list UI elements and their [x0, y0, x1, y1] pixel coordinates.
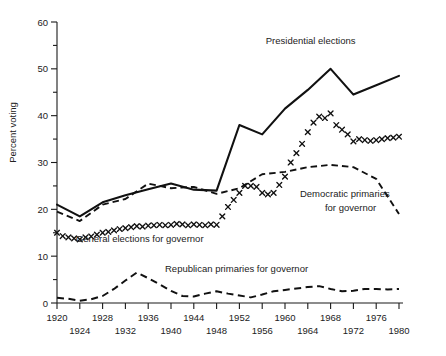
x-tick-label: 1936	[138, 312, 159, 323]
x-marker	[186, 223, 191, 228]
x-marker	[288, 160, 293, 165]
series-1	[55, 111, 402, 242]
x-tick-label: 1928	[92, 312, 113, 323]
x-marker	[385, 136, 390, 141]
y-axis: 0102030405060Percent voting	[7, 17, 57, 309]
series-annotation: Presidential elections	[266, 35, 356, 46]
y-tick-label: 40	[37, 110, 48, 121]
x-marker	[380, 137, 385, 142]
x-tick-label: 1944	[183, 312, 204, 323]
series-annotation: Democratic primaries	[300, 188, 390, 199]
y-axis-title: Percent voting	[7, 102, 18, 163]
x-tick-label: 1976	[366, 312, 387, 323]
x-marker	[271, 191, 276, 196]
x-tick-label: 1952	[229, 312, 250, 323]
x-marker	[226, 205, 231, 210]
x-marker	[117, 227, 122, 232]
x-marker	[203, 223, 208, 228]
x-marker	[209, 222, 214, 227]
series-annotation: for governor	[325, 202, 376, 213]
dashed-series-path	[57, 273, 399, 301]
x-marker	[191, 222, 196, 227]
x-marker	[220, 214, 225, 219]
x-marker	[368, 139, 373, 144]
x-tick-label: 1972	[343, 325, 364, 336]
y-tick-label: 20	[37, 204, 48, 215]
x-tick-label: 1932	[115, 325, 136, 336]
x-marker	[180, 222, 185, 227]
x-marker	[157, 222, 162, 227]
x-marker	[266, 192, 271, 197]
x-marker	[60, 234, 65, 239]
x-marker	[248, 184, 253, 189]
y-tick-label: 60	[37, 17, 48, 28]
x-marker	[129, 225, 134, 230]
x-marker	[231, 198, 236, 203]
x-marker	[260, 191, 265, 196]
series-annotation: General elections for governor	[76, 233, 204, 244]
x-marker	[254, 184, 259, 189]
x-marker	[283, 174, 288, 179]
x-marker	[300, 141, 305, 146]
x-marker	[140, 224, 145, 229]
y-tick-label: 50	[37, 63, 48, 74]
x-marker	[305, 130, 310, 135]
annotation-layer: Presidential electionsGeneral elections …	[76, 35, 390, 274]
x-marker	[66, 235, 71, 240]
x-tick-label: 1948	[206, 325, 227, 336]
x-marker	[277, 183, 282, 188]
x-marker	[169, 222, 174, 227]
series-annotation: Republican primaries for governor	[165, 263, 308, 274]
x-marker	[146, 223, 151, 228]
x-marker	[174, 221, 179, 226]
x-marker	[391, 135, 396, 140]
x-marker	[397, 134, 402, 139]
x-marker	[351, 139, 356, 144]
x-marker	[340, 127, 345, 132]
voter-turnout-line-chart: 0102030405060Percent voting 192019281936…	[0, 0, 446, 356]
x-marker	[357, 137, 362, 142]
x-marker	[112, 228, 117, 233]
x-tick-label: 1940	[160, 325, 181, 336]
x-marker	[362, 138, 367, 143]
y-tick-label: 30	[37, 157, 48, 168]
x-tick-label: 1980	[388, 325, 409, 336]
x-marker	[374, 138, 379, 143]
x-tick-label: 1964	[297, 325, 318, 336]
chart-container: 0102030405060Percent voting 192019281936…	[0, 0, 446, 356]
x-marker	[152, 223, 157, 228]
y-tick-label: 0	[43, 298, 48, 309]
x-marker	[163, 223, 168, 228]
x-tick-label: 1920	[46, 312, 67, 323]
x-marker	[311, 120, 316, 125]
x-marker	[214, 222, 219, 227]
x-axis: 1920192819361944195219601968197619241932…	[46, 303, 409, 336]
x-marker	[123, 226, 128, 231]
x-marker	[323, 116, 328, 121]
x-marker	[328, 111, 333, 116]
x-marker	[134, 224, 139, 229]
x-marker	[334, 123, 339, 128]
x-marker	[294, 151, 299, 156]
y-tick-label: 10	[37, 251, 48, 262]
x-tick-label: 1960	[274, 312, 295, 323]
x-tick-label: 1924	[69, 325, 90, 336]
x-marker	[197, 222, 202, 227]
x-tick-label: 1956	[252, 325, 273, 336]
x-marker	[237, 191, 242, 196]
x-tick-label: 1968	[320, 312, 341, 323]
x-marker	[345, 132, 350, 137]
x-marker	[317, 114, 322, 119]
series-3	[57, 273, 399, 301]
